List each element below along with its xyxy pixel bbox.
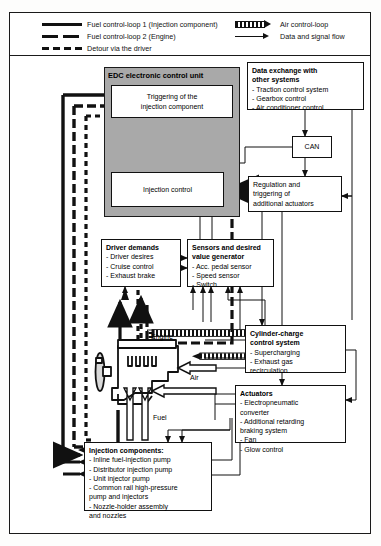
cylinder-item: - Exhaust gas xyxy=(250,357,342,366)
sensors-title-2: value generator xyxy=(192,252,270,261)
cylinder-title-1: Cylinder-charge xyxy=(250,329,342,338)
actuators-item: - Glow control xyxy=(240,445,342,454)
data-exchange-title-2: other systems xyxy=(252,75,360,84)
injection-components-item: pump and injectors xyxy=(89,492,208,501)
box-actuators[interactable]: Actuators - Electropneumatic converter -… xyxy=(235,385,346,443)
injection-components-item: - Unit injector pump xyxy=(89,474,208,483)
injection-components-item: - Inline fuel-injection pump xyxy=(89,455,208,464)
sensors-item: - Switch xyxy=(192,280,270,289)
injection-components-item: - Distributor injection pump xyxy=(89,465,208,474)
regulation-line-2: triggering of xyxy=(253,189,338,198)
data-exchange-item: - Traction control system xyxy=(252,85,360,94)
label-air: Air xyxy=(190,374,199,381)
driver-demands-item: - Exhaust brake xyxy=(106,271,177,280)
data-exchange-title-1: Data exchange with xyxy=(252,66,360,75)
box-can[interactable]: CAN xyxy=(292,136,332,158)
injection-components-item: - Common rail high-pressure xyxy=(89,483,208,492)
box-injection-components[interactable]: Injection components: - Inline fuel-inje… xyxy=(84,442,212,511)
cylinder-title-2: control system xyxy=(250,338,342,347)
can-label: CAN xyxy=(305,142,320,152)
cylinder-item: recirculation xyxy=(250,366,342,375)
sensors-title-1: Sensors and desired xyxy=(192,243,270,252)
cylinder-item: - Supercharging xyxy=(250,348,342,357)
injection-control-label: Injection control xyxy=(143,185,192,195)
diagram-page: Fuel control-loop 1 (Injection component… xyxy=(0,0,381,546)
box-triggering-injection-component[interactable]: Triggering of the injection component xyxy=(111,85,233,118)
box-sensors-desired-value-generator[interactable]: Sensors and desired value generator - Ac… xyxy=(187,239,274,287)
sensors-item: - Acc. pedal sensor xyxy=(192,262,270,271)
regulation-line-3: additional actuators xyxy=(253,199,338,208)
edc-panel-title: EDC electronic control unit xyxy=(108,71,203,80)
box-data-exchange[interactable]: Data exchange with other systems - Tract… xyxy=(247,62,364,110)
data-exchange-item: - Air conditioner control xyxy=(252,103,360,112)
driver-demands-item: - Driver desires xyxy=(106,252,177,261)
driver-demands-title: Driver demands xyxy=(106,243,177,252)
sensors-item: - Speed sensor xyxy=(192,271,270,280)
driver-demands-item: - Cruise control xyxy=(106,262,177,271)
injection-components-item: - Nozzle-holder assembly xyxy=(89,502,208,511)
box-injection-control[interactable]: Injection control xyxy=(111,172,224,207)
regulation-line-1: Regulation and xyxy=(253,180,338,189)
triggering-line-2: injection component xyxy=(141,102,203,112)
injection-components-title: Injection components: xyxy=(89,446,208,455)
actuators-item: - Electropneumatic xyxy=(240,398,342,407)
actuators-item: converter xyxy=(240,408,342,417)
triggering-line-1: Triggering of the xyxy=(147,92,198,102)
actuators-item: braking system xyxy=(240,426,342,435)
box-regulation-triggering-actuators[interactable]: Regulation and triggering of additional … xyxy=(248,176,342,212)
actuators-item: - Fan xyxy=(240,435,342,444)
box-cylinder-charge-control-system[interactable]: Cylinder-charge control system - Superch… xyxy=(245,325,346,373)
data-exchange-item: - Gearbox control xyxy=(252,94,360,103)
label-fuel: Fuel xyxy=(153,414,167,421)
actuators-item: - Additional retarding xyxy=(240,417,342,426)
box-driver-demands[interactable]: Driver demands - Driver desires - Cruise… xyxy=(101,239,181,287)
injection-components-item: and nozzles xyxy=(89,511,208,520)
actuators-title: Actuators xyxy=(240,389,342,398)
label-engine: Engine xyxy=(151,333,173,340)
